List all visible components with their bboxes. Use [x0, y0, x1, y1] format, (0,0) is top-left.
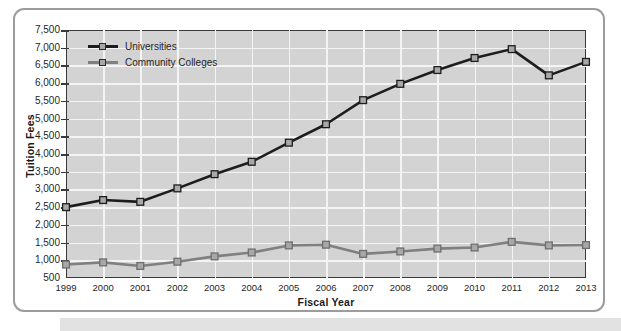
- data-point-marker: [100, 197, 107, 204]
- x-tick-label: 2003: [195, 282, 235, 293]
- legend-swatch-community-colleges: [88, 56, 118, 68]
- data-point-marker: [583, 58, 590, 65]
- y-tick-label: 3,500: [14, 167, 60, 177]
- data-point-marker: [137, 263, 144, 270]
- data-point-marker: [471, 55, 478, 62]
- data-point-marker: [63, 261, 70, 268]
- data-point-marker: [397, 80, 404, 87]
- data-point-marker: [508, 46, 515, 53]
- y-tick-label: 3,000: [14, 184, 60, 194]
- y-tick-label: 7,000: [14, 43, 60, 53]
- data-point-marker: [397, 248, 404, 255]
- x-tick-label: 2005: [269, 282, 309, 293]
- y-tick-label: 2,500: [14, 202, 60, 212]
- y-tick-label: 4,500: [14, 131, 60, 141]
- data-point-marker: [508, 238, 515, 245]
- x-tick-label: 2001: [120, 282, 160, 293]
- x-tick-label: 2002: [157, 282, 197, 293]
- data-point-marker: [434, 245, 441, 252]
- data-point-marker: [545, 242, 552, 249]
- data-point-marker: [323, 121, 330, 128]
- x-tick-label: 2007: [343, 282, 383, 293]
- data-point-marker: [323, 241, 330, 248]
- y-tick-label: 1,500: [14, 238, 60, 248]
- data-point-marker: [211, 171, 218, 178]
- data-point-marker: [285, 242, 292, 249]
- data-point-marker: [248, 158, 255, 165]
- x-axis-title: Fiscal Year: [66, 296, 586, 308]
- legend-swatch-universities: [88, 40, 118, 52]
- data-point-marker: [63, 204, 70, 211]
- x-tick-label: 2004: [232, 282, 272, 293]
- y-tick-label: 2,000: [14, 220, 60, 230]
- data-point-marker: [471, 244, 478, 251]
- y-axis-title: Tuition Fees: [24, 96, 36, 196]
- x-tick-label: 2013: [566, 282, 606, 293]
- x-tick-label: 2011: [492, 282, 532, 293]
- y-tick-label: 5,000: [14, 114, 60, 124]
- legend-item-community-colleges: Community Colleges: [88, 54, 268, 70]
- y-tick-label: 1,000: [14, 255, 60, 265]
- legend-item-universities: Universities: [88, 38, 268, 54]
- x-tick-label: 2008: [380, 282, 420, 293]
- y-tick-label: 4,000: [14, 149, 60, 159]
- data-point-marker: [248, 249, 255, 256]
- legend-label-community-colleges: Community Colleges: [125, 57, 217, 68]
- x-tick-label: 2009: [417, 282, 457, 293]
- data-point-marker: [174, 185, 181, 192]
- x-tick-label: 2012: [529, 282, 569, 293]
- x-tick-label: 1999: [46, 282, 86, 293]
- data-point-marker: [100, 259, 107, 266]
- y-tick-label: 6,500: [14, 60, 60, 70]
- data-point-marker: [211, 253, 218, 260]
- data-point-marker: [360, 251, 367, 258]
- x-tick-label: 2006: [306, 282, 346, 293]
- x-tick-label: 2010: [455, 282, 495, 293]
- y-tick-label: 5,500: [14, 96, 60, 106]
- page-root: Tuition Fees 7,5007,0006,5006,0005,5005,…: [0, 0, 621, 331]
- x-tick-label: 2000: [83, 282, 123, 293]
- y-tick-label: 6,000: [14, 78, 60, 88]
- line-chart: Tuition Fees 7,5007,0006,5006,0005,5005,…: [0, 0, 621, 331]
- data-point-marker: [583, 242, 590, 249]
- y-tick-label: 7,500: [14, 25, 60, 35]
- data-point-marker: [545, 72, 552, 79]
- data-point-marker: [174, 258, 181, 265]
- data-point-marker: [285, 139, 292, 146]
- chart-legend: Universities Community Colleges: [88, 38, 268, 70]
- legend-label-universities: Universities: [125, 41, 177, 52]
- data-point-marker: [434, 67, 441, 74]
- data-point-marker: [137, 198, 144, 205]
- data-point-marker: [360, 97, 367, 104]
